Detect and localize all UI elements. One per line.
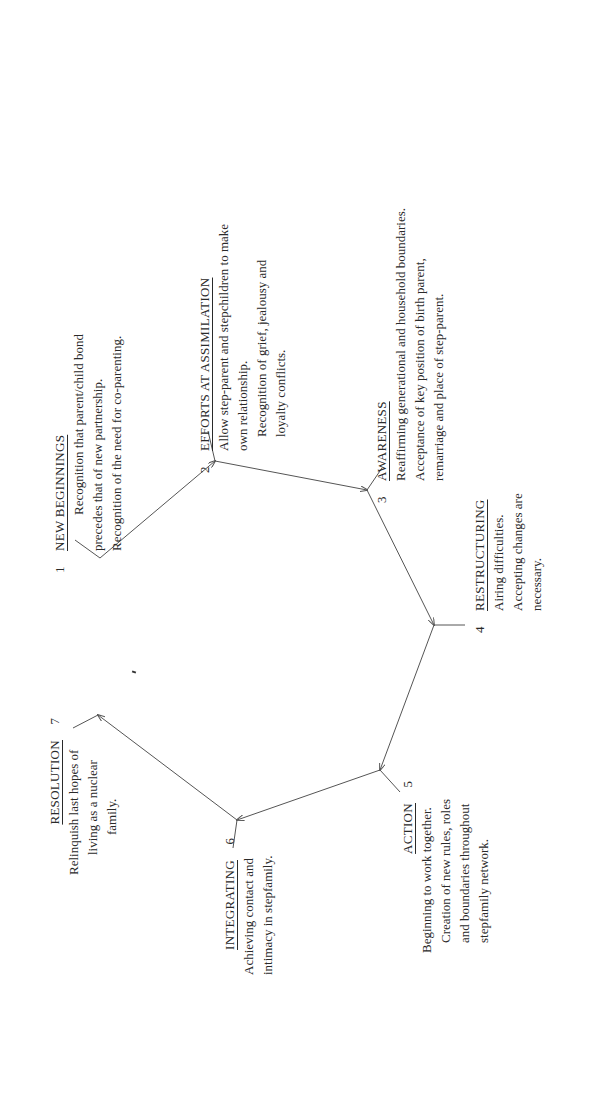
stage-7: RESOLUTION7 Relinquish last hopes of liv… <box>45 718 121 893</box>
stage-text: Airing difficulties. <box>489 493 508 633</box>
stage-6: INTEGRATING6 Achieving contact and intim… <box>220 838 277 983</box>
stage-2: 2EFFORTS AT ASSIMILATION Allow step-pare… <box>195 224 290 473</box>
stage-title: EFFORTS AT ASSIMILATION <box>197 278 212 451</box>
stage-text: Relinquish last hopes of <box>64 718 83 893</box>
stage-number: 1 <box>50 551 69 573</box>
stage-text: Accepting changes are <box>508 493 527 633</box>
stage-text: Achieving contact and <box>239 838 258 983</box>
stage-text: family. <box>102 718 121 893</box>
stage-text: Recognition that parent/child bond <box>69 334 88 573</box>
stage-number: 2 <box>195 451 214 473</box>
stage-number: 6 <box>220 838 239 860</box>
stage-number: 4 <box>470 611 489 633</box>
stage-text: own relationship. <box>233 224 252 473</box>
stage-text: living as a nuclear <box>83 718 102 893</box>
stage-number: 3 <box>372 481 391 503</box>
stage-number: 7 <box>45 718 64 740</box>
stage-text: Recognition of the need for co-parenting… <box>107 334 126 573</box>
stage-text: Beginning to work together. <box>417 781 436 1013</box>
stage-text: Recognition of grief, jealousy and <box>252 224 271 473</box>
stage-text: precedes that of new partnership. <box>88 334 107 573</box>
stage-4: 4RESTRUCTURING Airing difficulties. Acce… <box>470 493 546 633</box>
stage-title: AWARENESS <box>374 401 389 481</box>
stage-text: intimacy in stepfamily. <box>258 838 277 983</box>
stage-text: Allow step-parent and stepchildren to ma… <box>214 224 233 473</box>
stage-5: ACTION5 Beginning to work together. Crea… <box>398 781 493 1013</box>
stage-text: Creation of new rules, roles <box>436 781 455 1013</box>
stage-text: remarriage and place of step-parent. <box>429 208 448 503</box>
stage-title: ACTION <box>400 803 415 854</box>
stage-text: loyalty conflicts. <box>271 224 290 473</box>
stage-text: stepfamily network. <box>474 781 493 1013</box>
stage-title: RESTRUCTURING <box>472 499 487 611</box>
stage-title: INTEGRATING <box>222 860 237 950</box>
stage-number: 5 <box>398 781 417 803</box>
stage-text: necessary. <box>527 493 546 633</box>
stage-text: Acceptance of key position of birth pare… <box>410 208 429 503</box>
arrow-3-4 <box>367 490 434 625</box>
stage-title: RESOLUTION <box>47 740 62 825</box>
stage-title: NEW BEGINNINGS <box>52 435 67 551</box>
arrow-4-5 <box>380 625 434 770</box>
arrow-5-6 <box>237 770 380 820</box>
rotated-page: 1NEW BEGINNINGS Recognition that parent/… <box>0 0 596 1113</box>
stage-3: 3AWARENESS Reaffirming generational and … <box>372 208 448 503</box>
stage-1: 1NEW BEGINNINGS Recognition that parent/… <box>50 334 126 573</box>
stage-text: Reaffirming generational and household b… <box>391 208 410 503</box>
tick-5 <box>380 770 400 792</box>
stage-text: and boundaries throughout <box>455 781 474 1013</box>
